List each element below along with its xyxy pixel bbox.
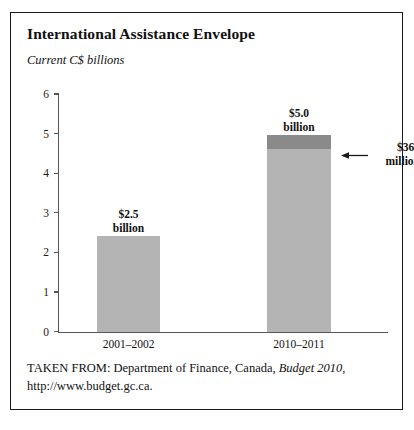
source-note: TAKEN FROM: Department of Finance, Canad…: [27, 359, 389, 395]
x-tick-label-2001-2002: 2001–2002: [87, 338, 170, 350]
callout-text: $364 million: [368, 140, 414, 169]
bar-2001-2002-value-line2: billion: [113, 222, 144, 234]
y-tick-mark-0: [54, 331, 59, 332]
chart-plot-area: 0 1 2 3 4 5 6 $2.5 billion 2001–2002 $5.…: [11, 13, 404, 411]
y-tick-label-2: 2: [25, 246, 49, 258]
bar-2010-2011-value-line1: $5.0: [289, 107, 309, 119]
source-italic-title: Budget 2010: [279, 361, 343, 375]
bar-2010-2011: [267, 135, 331, 332]
y-tick-mark-2: [54, 252, 59, 253]
y-tick-label-6: 6: [25, 88, 49, 100]
bar-2001-2002-value-line1: $2.5: [118, 208, 138, 220]
y-tick-label-3: 3: [25, 207, 49, 219]
x-tick-label-2010-2011: 2010–2011: [257, 338, 341, 350]
source-prefix: TAKEN FROM: Department of Finance, Canad…: [27, 361, 279, 375]
bar-2001-2002: [97, 236, 160, 332]
y-tick-mark-4: [54, 173, 59, 174]
y-tick-label-0: 0: [25, 326, 49, 338]
y-tick-label-5: 5: [25, 128, 49, 140]
y-tick-mark-3: [54, 212, 59, 213]
source-suffix: ,: [342, 361, 345, 375]
source-url: http://www.budget.gc.ca.: [27, 379, 153, 393]
figure-container: International Assistance Envelope Curren…: [10, 12, 403, 410]
y-tick-label-1: 1: [25, 286, 49, 298]
callout-line1: $364: [397, 141, 414, 153]
callout-line2: million: [385, 155, 414, 167]
y-tick-mark-6: [54, 93, 59, 94]
y-tick-mark-5: [54, 133, 59, 134]
bar-2001-2002-value-label: $2.5 billion: [97, 207, 160, 236]
y-tick-label-4: 4: [25, 167, 49, 179]
bar-2010-2011-top-segment: [267, 135, 331, 149]
bar-2010-2011-value-label: $5.0 billion: [267, 106, 331, 135]
bar-2010-2011-value-line2: billion: [283, 121, 314, 133]
x-axis-line: [58, 332, 388, 333]
callout-arrow-icon: [341, 151, 369, 160]
y-tick-mark-1: [54, 291, 59, 292]
